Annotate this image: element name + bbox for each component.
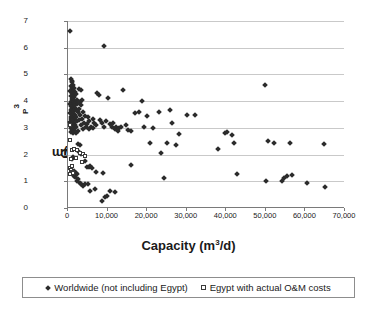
data-point <box>192 112 198 118</box>
data-point <box>184 112 190 118</box>
data-point <box>164 140 170 146</box>
y-tick-label: 0 <box>0 204 28 212</box>
y-tick-mark <box>64 155 67 156</box>
data-point <box>96 92 102 98</box>
y-axis-title-sub: P <box>21 109 30 115</box>
data-point <box>176 131 182 137</box>
gridline <box>68 181 344 182</box>
data-point <box>263 178 269 184</box>
data-point <box>92 186 98 192</box>
legend-item-worldwide: Worldwide (not including Egypt) <box>46 282 187 293</box>
data-point <box>322 184 328 190</box>
data-point <box>170 120 176 126</box>
data-point <box>322 141 328 147</box>
gridline <box>68 21 344 22</box>
y-tick-label: 7 <box>0 17 28 25</box>
gridline <box>68 74 344 75</box>
data-point <box>69 157 73 161</box>
data-point <box>139 98 145 104</box>
y-tick-mark <box>64 128 67 129</box>
data-point <box>100 170 106 176</box>
x-tick-mark <box>107 208 108 211</box>
data-point <box>156 110 162 116</box>
data-point <box>112 189 118 195</box>
data-point <box>136 110 142 116</box>
data-point <box>67 28 73 34</box>
data-point <box>231 141 237 147</box>
filled-diamond-icon <box>45 285 51 291</box>
x-tick-mark <box>67 208 68 211</box>
gridline <box>68 155 344 156</box>
gridline <box>68 48 344 49</box>
data-point <box>147 141 153 147</box>
y-tick-mark <box>64 101 67 102</box>
x-tick-mark <box>186 208 187 211</box>
open-square-icon <box>201 285 206 290</box>
legend-item-egypt: Egypt with actual O&M costs <box>201 282 331 293</box>
data-point <box>141 124 147 130</box>
data-point <box>173 142 179 148</box>
x-axis-title: Capacity (m3/d) <box>0 238 377 253</box>
data-point <box>167 108 173 114</box>
data-point <box>80 160 84 164</box>
y-tick-label: 3 <box>0 124 28 132</box>
data-point <box>68 138 72 142</box>
data-point <box>68 123 72 127</box>
data-point <box>121 87 127 93</box>
legend-label-worldwide: Worldwide (not including Egypt) <box>54 282 187 293</box>
data-point <box>234 171 240 177</box>
data-point <box>68 172 72 176</box>
data-point <box>83 154 87 158</box>
y-tick-label: 1 <box>0 177 28 185</box>
chart-figure: CP ($/m3) 01234567 010,00020,00030,00040… <box>0 0 377 310</box>
data-point <box>128 162 134 168</box>
data-point <box>70 164 74 168</box>
y-tick-mark <box>64 181 67 182</box>
y-tick-mark <box>64 48 67 49</box>
data-point <box>128 128 134 134</box>
data-point <box>161 175 167 181</box>
y-tick-label: 5 <box>0 70 28 78</box>
plot-area <box>67 21 344 208</box>
x-tick-mark <box>265 208 266 211</box>
x-tick-mark <box>146 208 147 211</box>
data-point <box>289 172 295 178</box>
y-tick-label: 6 <box>0 44 28 52</box>
data-point <box>271 141 277 147</box>
data-point <box>288 140 294 146</box>
x-tick-mark <box>225 208 226 211</box>
data-point <box>75 171 81 177</box>
x-axis-title-end: /d) <box>220 238 236 253</box>
data-point <box>144 113 150 119</box>
y-tick-mark <box>64 74 67 75</box>
data-point <box>94 169 100 175</box>
data-point <box>229 132 235 138</box>
x-tick-mark <box>304 208 305 211</box>
gridline <box>68 101 344 102</box>
y-tick-label: 4 <box>0 97 28 105</box>
data-point <box>304 181 310 187</box>
y-tick-mark <box>64 21 67 22</box>
chart-legend: Worldwide (not including Egypt) Egypt wi… <box>22 277 355 298</box>
x-tick-label: 70,000 <box>321 212 367 220</box>
data-point <box>215 146 221 152</box>
data-point <box>85 182 91 188</box>
data-point <box>74 156 78 160</box>
plot-wrapper: CP ($/m3) 01234567 010,00020,00030,00040… <box>0 0 377 255</box>
y-tick-label: 2 <box>0 151 28 159</box>
data-point <box>78 88 84 94</box>
legend-label-egypt: Egypt with actual O&M costs <box>210 282 331 293</box>
data-point <box>150 126 156 132</box>
data-point <box>262 82 268 88</box>
x-tick-mark <box>344 208 345 211</box>
x-axis-title-main: Capacity (m <box>141 238 215 253</box>
